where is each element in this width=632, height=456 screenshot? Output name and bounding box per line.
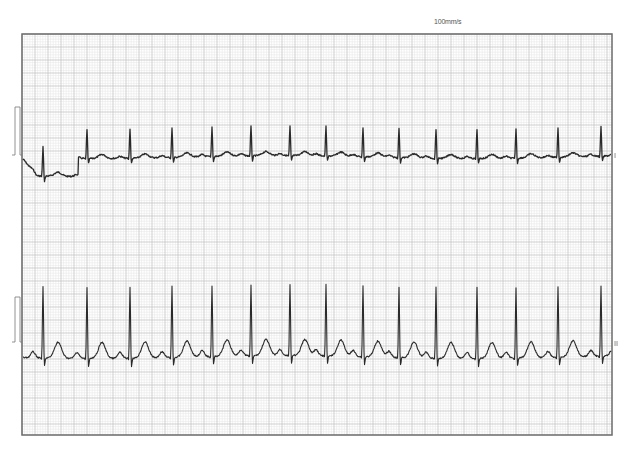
lead-i-label: I	[614, 152, 616, 159]
ecg-grid	[22, 34, 612, 435]
lead-ii-label: II	[614, 340, 618, 347]
ecg-chart	[0, 0, 632, 456]
calibration-pulses	[12, 107, 22, 342]
